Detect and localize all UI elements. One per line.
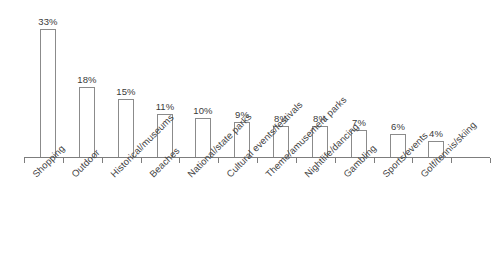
bar-value-label: 6%: [378, 121, 418, 132]
axis-tick: [335, 158, 336, 163]
bar-value-label: 15%: [106, 86, 146, 97]
axis-tick: [179, 158, 180, 163]
axis-tick: [412, 158, 413, 163]
bar-value-label: 33%: [28, 16, 68, 27]
axis-tick: [374, 158, 375, 163]
axis-tick: [257, 158, 258, 163]
axis-tick: [141, 158, 142, 163]
bar: [40, 29, 56, 157]
bar-value-label: 11%: [145, 101, 185, 112]
bar-value-label: 10%: [183, 105, 223, 116]
bar-value-label: 18%: [67, 74, 107, 85]
plot-area: 33%18%15%11%10%9%8%8%7%6%4% ShoppingOutd…: [0, 0, 504, 266]
axis-tick: [218, 158, 219, 163]
axis-tick: [490, 158, 491, 163]
axis-tick: [451, 158, 452, 163]
axis-tick: [24, 158, 25, 163]
bar-chart: 33%18%15%11%10%9%8%8%7%6%4% ShoppingOutd…: [0, 0, 504, 266]
axis-tick: [102, 158, 103, 163]
axis-tick: [63, 158, 64, 163]
axis-tick: [296, 158, 297, 163]
